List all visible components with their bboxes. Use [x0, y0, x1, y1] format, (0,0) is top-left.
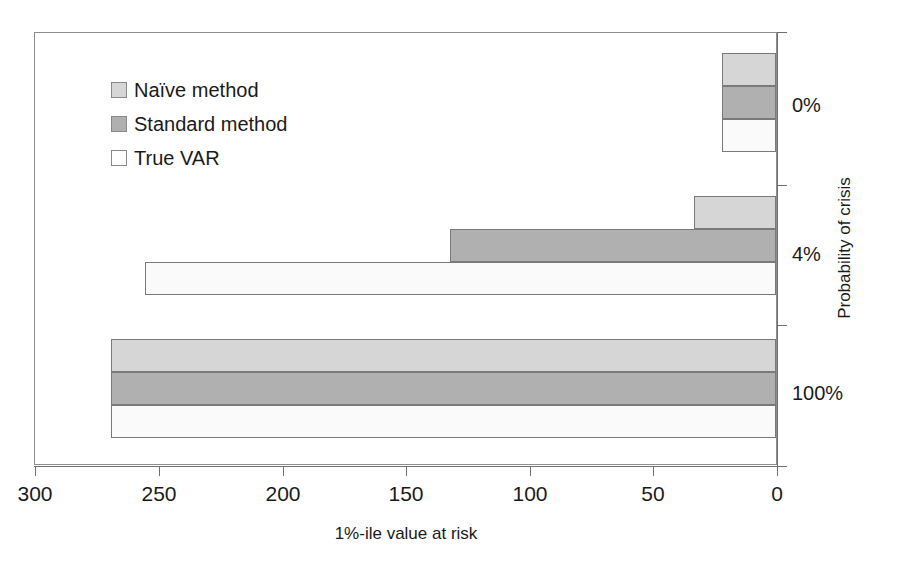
x-axis-label-200: 200 [265, 482, 300, 506]
legend-label-naive: Naïve method [134, 79, 259, 102]
bar-truevar-100pct [111, 405, 776, 438]
x-axis-tick-250 [159, 467, 160, 476]
y-axis-label-4pct: 4% [792, 243, 821, 266]
y-axis-tick-top [778, 32, 787, 33]
y-axis-line [777, 32, 778, 466]
legend-item-naive: Naïve method [111, 73, 287, 107]
legend-label-standard: Standard method [134, 113, 287, 136]
x-axis-label-100: 100 [512, 482, 547, 506]
y-axis-tick-2 [778, 325, 787, 326]
legend: Naïve method Standard method True VAR [111, 73, 287, 175]
legend-swatch-standard-icon [111, 116, 127, 132]
x-axis-label-150: 150 [388, 482, 423, 506]
legend-item-truevar: True VAR [111, 141, 287, 175]
x-axis-label-0: 0 [771, 482, 783, 506]
bar-naive-0pct [722, 53, 776, 86]
bar-standard-0pct [722, 86, 776, 119]
x-axis-tick-200 [283, 467, 284, 476]
bar-naive-4pct [694, 196, 776, 229]
x-axis-label-50: 50 [641, 482, 664, 506]
y-axis-title: Probability of crisis [835, 177, 855, 319]
bar-truevar-4pct [145, 262, 776, 295]
legend-label-truevar: True VAR [134, 147, 220, 170]
y-axis-tick-bottom [778, 466, 787, 467]
chart-figure: Naïve method Standard method True VAR 0%… [0, 0, 904, 572]
x-axis-tick-100 [530, 467, 531, 476]
x-axis-tick-50 [653, 467, 654, 476]
bar-naive-100pct [111, 339, 776, 372]
x-axis-title: 1%-ile value at risk [335, 524, 478, 544]
x-axis-label-300: 300 [17, 482, 52, 506]
plot-area: Naïve method Standard method True VAR [34, 32, 777, 465]
bar-standard-100pct [111, 372, 776, 405]
x-axis-tick-150 [406, 467, 407, 476]
bar-truevar-0pct [722, 119, 776, 152]
legend-item-standard: Standard method [111, 107, 287, 141]
y-axis-tick-1 [778, 185, 787, 186]
y-axis-label-0pct: 0% [792, 94, 821, 117]
x-axis-tick-0 [777, 467, 778, 476]
bar-standard-4pct [450, 229, 776, 262]
y-axis-label-100pct: 100% [792, 382, 843, 405]
legend-swatch-truevar-icon [111, 150, 127, 166]
x-axis-label-250: 250 [141, 482, 176, 506]
x-axis-tick-300 [35, 467, 36, 476]
legend-swatch-naive-icon [111, 82, 127, 98]
